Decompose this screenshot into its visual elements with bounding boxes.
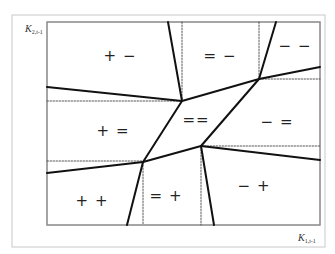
region-label-plus-plus: + + — [76, 194, 109, 209]
y-axis-label-base: K — [25, 23, 32, 34]
region-label-minus-equal: − = — [261, 115, 294, 130]
boundary-line — [201, 146, 214, 225]
y-axis-label-subscript: 2,t-1 — [32, 29, 43, 35]
boundary-line — [168, 22, 182, 101]
boundary-line — [201, 79, 259, 146]
boundary-line — [127, 162, 143, 225]
x-axis-label-base: K — [298, 232, 305, 243]
boundary-line — [47, 87, 182, 101]
region-label-plus-equal: + = — [97, 124, 130, 139]
region-label-equal-minus: = − — [204, 49, 237, 64]
region-label-minus-plus: − + — [238, 179, 271, 194]
boundary-line — [201, 146, 320, 160]
boundary-line — [182, 79, 259, 101]
boundary-line — [47, 162, 143, 173]
region-label-equal-plus: = + — [150, 189, 183, 204]
boundary-line — [259, 67, 320, 79]
region-label-equal-equal: == — [182, 113, 209, 128]
x-axis-label-subscript: 1,t-1 — [305, 238, 316, 244]
phase-diagram: K2,t-1 K1,t-1 + − = − − − + = == − = + +… — [0, 0, 335, 254]
region-label-minus-minus: − − — [279, 39, 312, 54]
x-axis-label: K1,t-1 — [298, 233, 316, 244]
region-label-plus-minus: + − — [104, 49, 137, 64]
boundary-line — [259, 22, 276, 79]
y-axis-label: K2,t-1 — [25, 24, 43, 35]
